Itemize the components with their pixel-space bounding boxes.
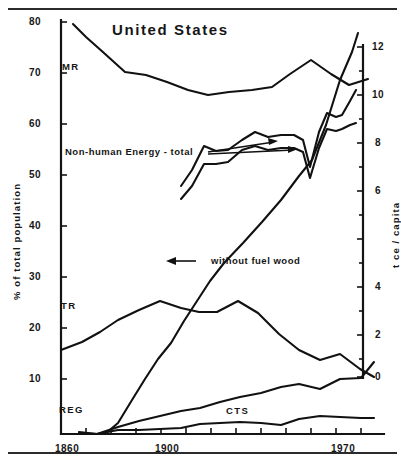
series-line-tr xyxy=(61,301,374,377)
ytick-left-60: 60 xyxy=(29,119,41,129)
arrowhead-without-fuel-wood xyxy=(166,257,176,265)
ytick-right-4: 4 xyxy=(375,282,381,292)
ytick-left-70: 70 xyxy=(29,68,41,78)
y-axis-title-left: % of total population xyxy=(12,183,22,300)
annotation-without-fuel-wood: without fuel wood xyxy=(211,256,300,266)
series-line-energy-steep-rise xyxy=(105,33,358,434)
ytick-left-50: 50 xyxy=(29,170,41,180)
ytick-left-30: 30 xyxy=(29,272,41,282)
xtick-1860: 1860 xyxy=(55,444,79,454)
series-label-reg: REG xyxy=(59,405,84,415)
page-title: United States xyxy=(112,22,229,37)
ytick-right-10: 10 xyxy=(372,90,384,100)
axis-lines xyxy=(61,20,384,434)
ytick-right-0: 0 xyxy=(375,372,381,382)
figure-container: United States 80 70 60 50 40 30 20 10 12… xyxy=(0,0,401,462)
ytick-left-80: 80 xyxy=(29,17,41,27)
xtick-1900: 1900 xyxy=(155,444,179,454)
arrowhead-nonhuman-upper xyxy=(268,138,278,145)
annotation-leader-lines xyxy=(166,138,298,265)
ytick-right-2: 2 xyxy=(375,330,381,340)
series-label-tr: TR xyxy=(61,301,76,311)
chart-svg xyxy=(0,0,401,462)
series-label-cts: CTS xyxy=(226,406,249,416)
series-label-mr: MR xyxy=(62,62,80,72)
xtick-1970: 1970 xyxy=(331,444,355,454)
ytick-right-12: 12 xyxy=(372,42,384,52)
ytick-left-10: 10 xyxy=(29,374,41,384)
y-axis-title-right: t ce / capita xyxy=(391,202,401,268)
ytick-left-20: 20 xyxy=(29,323,41,333)
ytick-right-6: 6 xyxy=(375,186,381,196)
series-line-nonhuman-energy-total xyxy=(181,90,356,186)
annotation-nonhuman-energy: Non-human Energy - total xyxy=(65,147,193,157)
series-line-without-fuel-wood xyxy=(181,123,356,199)
top-rule xyxy=(8,8,397,10)
ytick-left-40: 40 xyxy=(29,221,41,231)
ytick-right-8: 8 xyxy=(375,138,381,148)
